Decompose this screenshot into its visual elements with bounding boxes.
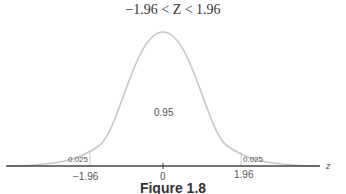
chart-plot: 0.95 0.025 0.025 −1.96 0 1.96 z [0,0,346,194]
normal-distribution-figure: −1.96 < Z < 1.96 0.95 0.025 0.025 −1.96 … [0,0,346,194]
right-tail-label: 0.025 [243,155,264,164]
chart-title: −1.96 < Z < 1.96 [0,2,346,18]
left-tail-label: 0.025 [68,155,89,164]
axis-variable-label: z [325,161,331,171]
normal-curve [8,32,318,166]
figure-caption: Figure 1.8 [0,180,346,194]
tick-label-right: 1.96 [234,169,254,180]
center-area-label: 0.95 [154,107,174,118]
